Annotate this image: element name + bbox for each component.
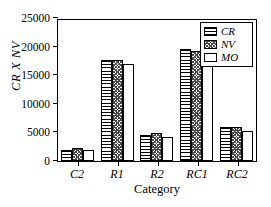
- legend-swatch-mo-icon: [204, 53, 217, 62]
- bar-rc1-cr: [180, 49, 191, 161]
- bar-r2-cr: [140, 135, 151, 161]
- bar-rc2-mo: [242, 131, 253, 161]
- bar-r1-cr: [101, 60, 112, 161]
- legend-label: MO: [221, 52, 238, 63]
- x-axis-tick-label: RC2: [217, 166, 257, 182]
- y-axis-tick-label: 20000: [2, 41, 50, 53]
- bar-r2-nv: [151, 133, 162, 161]
- x-axis-label: Category: [57, 182, 257, 197]
- x-axis-tick-label: RC1: [177, 166, 217, 182]
- legend-swatch-nv-icon: [204, 40, 217, 49]
- bar-c2-mo: [83, 150, 94, 161]
- y-axis-tick-label: 0: [2, 155, 50, 167]
- bar-r1-nv: [112, 60, 123, 161]
- legend-label: CR: [221, 26, 235, 37]
- y-axis-tick-label: 10000: [2, 98, 50, 110]
- y-axis-tick: [53, 17, 58, 18]
- y-axis-tick-label: 25000: [2, 12, 50, 24]
- legend-item-mo: MO: [204, 51, 249, 64]
- bar-rc2-nv: [231, 127, 242, 161]
- bar-chart-figure: CR X NV 0500010000150002000025000 C2R1R2…: [0, 0, 271, 207]
- bar-c2-nv: [72, 148, 83, 161]
- x-axis-tick-labels: C2R1R2RC1RC2: [57, 166, 257, 182]
- bar-rc1-nv: [191, 51, 202, 161]
- legend-item-nv: NV: [204, 38, 249, 51]
- bar-group: [61, 20, 94, 161]
- bar-rc2-cr: [220, 127, 231, 161]
- y-axis-tick-label: 15000: [2, 69, 50, 81]
- bar-c2-cr: [61, 150, 72, 161]
- chart-legend: CRNVMO: [200, 22, 253, 67]
- bar-rc1-mo: [202, 51, 213, 161]
- bar-r1-mo: [123, 64, 134, 161]
- bar-group: [101, 20, 134, 161]
- legend-item-cr: CR: [204, 25, 249, 38]
- x-axis-tick-label: C2: [57, 166, 97, 182]
- x-axis-tick-label: R2: [137, 166, 177, 182]
- x-axis-tick-label: R1: [97, 166, 137, 182]
- legend-swatch-cr-icon: [204, 27, 217, 36]
- bar-group: [140, 20, 173, 161]
- y-axis-tick-label: 5000: [2, 126, 50, 138]
- legend-label: NV: [221, 39, 235, 50]
- bar-r2-mo: [162, 137, 173, 161]
